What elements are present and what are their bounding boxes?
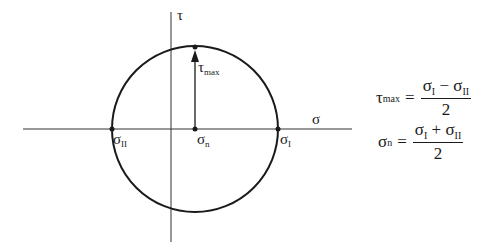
eq2-op: +: [427, 120, 445, 139]
sigma-n-symbol: σ: [197, 131, 205, 147]
eq2-num-b-sub: II: [455, 130, 462, 141]
eq2-num-b: σ: [445, 120, 454, 139]
eq1-fraction: σI − σII 2: [421, 76, 471, 120]
eq1-num-a: σ: [423, 76, 432, 95]
sigma-symbol: σ: [312, 111, 320, 127]
eq1-denominator: 2: [442, 99, 451, 120]
tau-axis-label: τ: [177, 8, 183, 23]
eq2-denominator: 2: [434, 143, 443, 164]
sigma-I-symbol: σ: [280, 131, 288, 147]
tau-max-label: τmax: [198, 60, 220, 77]
eq2-numerator: σI + σII: [413, 120, 463, 143]
sigma-n-sub: n: [205, 139, 210, 149]
eq1-equals: =: [405, 88, 415, 108]
sigma-II-label: σII: [113, 132, 127, 149]
eq2-lhs: σ: [378, 132, 387, 152]
sigma-axis-label: σ: [312, 112, 320, 127]
eq1-lhs: τ: [376, 88, 383, 108]
sigma-II-symbol: σ: [113, 131, 121, 147]
sigma-n-equation: σn = σI + σII 2: [378, 120, 463, 164]
sigma-n-label: σn: [197, 132, 210, 149]
eq2-num-a: σ: [415, 120, 424, 139]
sigma-I-sub: I: [288, 139, 291, 149]
eq1-num-b-sub: II: [462, 86, 469, 97]
eq2-equals: =: [397, 132, 407, 152]
eq1-numerator: σI − σII: [421, 76, 471, 99]
sigma-II-sub: II: [121, 139, 127, 149]
point-tau-max: [193, 45, 198, 50]
eq1-lhs-sub: max: [383, 93, 400, 104]
tau-max-equation: τmax = σI − σII 2: [376, 76, 471, 120]
tau-symbol: τ: [177, 7, 183, 23]
sigma-I-label: σI: [280, 132, 291, 149]
eq2-fraction: σI + σII 2: [413, 120, 463, 164]
eq2-lhs-sub: n: [387, 137, 392, 148]
eq1-op: −: [435, 76, 453, 95]
tau-max-sub: max: [204, 67, 220, 77]
